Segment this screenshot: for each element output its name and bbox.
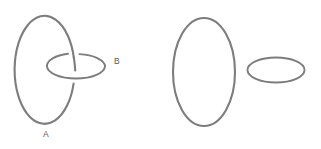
unlinked-vertical-ring <box>173 18 235 126</box>
ring-a-crossing-segment <box>74 58 75 71</box>
ring-a-label: A <box>43 129 49 139</box>
ring-a-main-arc <box>15 16 74 124</box>
left-linked-rings-group: A B <box>15 16 120 139</box>
ring-b-far-arc-left-segment <box>47 54 68 66</box>
ring-b-far-arc-right-segment <box>80 54 106 66</box>
diagram-canvas: A B <box>0 0 321 149</box>
unlinked-horizontal-ring <box>248 58 305 83</box>
ring-b-label: B <box>114 56 120 66</box>
right-unlinked-rings-group <box>173 18 305 126</box>
rings-diagram-svg: A B <box>0 0 321 149</box>
